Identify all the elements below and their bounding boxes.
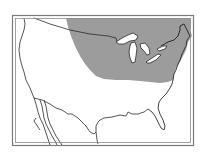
baja-tip [34,118,40,130]
range-map [0,0,204,156]
map-svg [0,0,204,156]
gulf-coast [96,109,148,144]
west-coast [19,18,50,145]
